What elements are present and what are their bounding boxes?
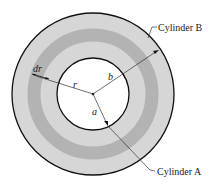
label-r: r	[73, 79, 77, 90]
label-dr: dr	[33, 63, 42, 74]
label-a: a	[92, 106, 97, 117]
label-cylinder-b: Cylinder B	[158, 22, 202, 33]
label-b: b	[108, 71, 113, 82]
cylinders-diagram: Cylinder B Cylinder A r b a dr	[0, 0, 220, 185]
label-cylinder-a: Cylinder A	[157, 166, 202, 177]
